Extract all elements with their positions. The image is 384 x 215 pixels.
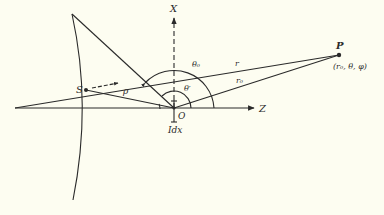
label-p: P xyxy=(335,40,344,51)
curved-surface xyxy=(72,14,82,200)
label-x: X xyxy=(169,3,178,14)
line-r xyxy=(15,55,339,108)
line-rho xyxy=(86,90,174,108)
label-p-coords: (r₀, θ, φ) xyxy=(333,62,367,71)
label-s: S xyxy=(76,84,83,95)
arc-theta0 xyxy=(145,70,214,108)
diagram-canvas: X Z O Idx S P (r₀, θ, φ) r r₀ ρ θ₀ θ′ xyxy=(0,0,384,215)
label-r0: r₀ xyxy=(236,76,244,85)
label-theta0: θ₀ xyxy=(192,60,201,69)
direction-arrow xyxy=(92,83,118,88)
point-p xyxy=(337,53,341,57)
point-o xyxy=(173,107,176,110)
arc-theta-prime xyxy=(162,91,191,108)
point-s xyxy=(84,88,88,92)
label-o: O xyxy=(178,111,186,121)
label-theta-prime: θ′ xyxy=(184,84,191,93)
label-idx: Idx xyxy=(167,125,182,135)
label-rho: ρ xyxy=(122,86,129,96)
label-r: r xyxy=(235,59,240,68)
label-z: Z xyxy=(258,103,267,114)
